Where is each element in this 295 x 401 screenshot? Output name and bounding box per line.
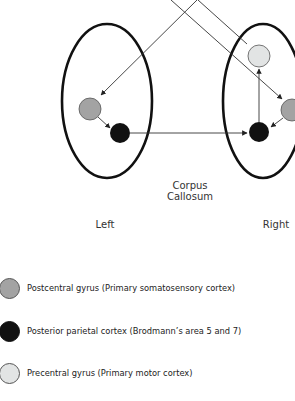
corpus-callosum-label: Corpus Callosum — [160, 180, 220, 202]
right-label: Right — [259, 219, 293, 230]
corpus-label: Corpus — [160, 180, 220, 191]
left-label: Left — [90, 219, 120, 230]
right-precentral-node — [248, 45, 270, 67]
descending-path-to-left — [101, 0, 197, 95]
legend-item-postcentral: Postcentral gyrus (Primary somatosensory… — [0, 277, 235, 299]
left-posterior-parietal-node — [110, 123, 130, 143]
light-gray-circle-icon — [0, 363, 20, 384]
left-gray-to-black-arrow — [98, 117, 110, 128]
right-postcentral-node — [281, 99, 295, 121]
legend-item-posterior-parietal: Posterior parietal cortex (Brodmann’s ar… — [0, 320, 241, 342]
gray-circle-icon — [0, 278, 20, 299]
legend-label: Posterior parietal cortex (Brodmann’s ar… — [27, 326, 241, 336]
right-posterior-parietal-node — [249, 122, 269, 142]
left-postcentral-node — [79, 98, 101, 120]
right-gray-to-black-arrow — [271, 118, 283, 127]
left-hemisphere — [62, 24, 152, 178]
descending-path-to-right-precentral — [198, 0, 247, 44]
black-circle-icon — [0, 321, 20, 342]
legend-label: Precentral gyrus (Primary motor cortex) — [27, 368, 193, 378]
legend-item-precentral: Precentral gyrus (Primary motor cortex) — [0, 362, 193, 384]
callosum-label: Callosum — [160, 191, 220, 202]
legend-label: Postcentral gyrus (Primary somatosensory… — [27, 283, 235, 293]
